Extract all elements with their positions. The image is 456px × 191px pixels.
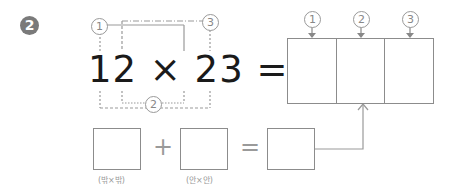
multiplication-expression: 12 × 23 = [88,48,288,91]
equals-sign: = [240,133,260,161]
sum-box[interactable] [267,128,315,170]
grid-label-1: 1 [304,11,321,28]
inner-product-caption: (안×안) [186,174,213,185]
result-cell-tens[interactable] [336,38,385,104]
result-grid [287,38,435,104]
plus-sign: + [153,133,173,161]
marker-3-circle: 3 [202,14,219,31]
result-cell-ones[interactable] [384,38,434,104]
outer-product-caption: (밖×밖) [98,174,125,185]
grid-label-3: 3 [402,11,419,28]
marker-2-circle: 2 [145,96,162,113]
marker-1-circle: 1 [91,18,108,35]
result-cell-hundreds[interactable] [287,38,337,104]
grid-label-2: 2 [353,11,370,28]
inner-product-box[interactable] [180,128,228,170]
outer-product-box[interactable] [93,128,141,170]
